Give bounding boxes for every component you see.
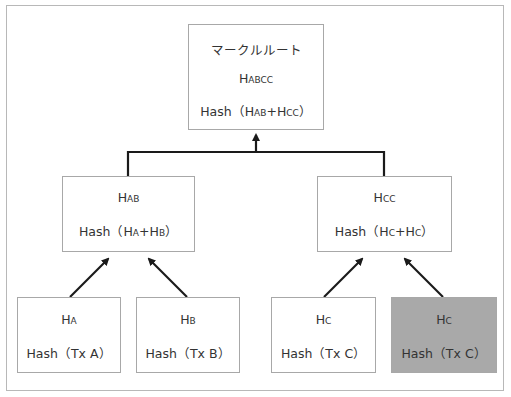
leaf-hash-label: HA [18,312,120,327]
hash-node-hab: HAB Hash（HA+HB） [62,176,195,252]
leaf-hash-label: HC [392,312,496,327]
leaf-formula: Hash（Tx C） [392,343,496,362]
hash-node-hcc: HCC Hash（HC+HC） [317,176,452,252]
leaf-hash-label: HC [272,312,375,327]
root-title: マークルルート [189,40,323,59]
leaf-node-hb: HB Hash（Tx B） [136,297,240,373]
leaf-hash-label: HB [137,312,239,327]
root-formula: Hash（HAB+HCC） [189,101,323,120]
leaf-node-hc-duplicate: HC Hash（Tx C） [391,297,497,373]
leaf-node-hc: HC Hash（Tx C） [271,297,376,373]
arrow-hc-to-hcc [324,259,362,297]
node-formula: Hash（HA+HB） [63,221,194,240]
leaf-formula: Hash（Tx A） [18,343,120,362]
node-hash-label: HCC [318,190,451,205]
root-hash-label: HABCC [189,71,323,86]
leaf-node-ha: HA Hash（Tx A） [17,297,121,373]
leaf-formula: Hash（Tx B） [137,343,239,362]
merkle-root-node: マークルルート HABCC Hash（HAB+HCC） [188,24,324,130]
node-formula: Hash（HC+HC） [318,221,451,240]
root-join-connector [128,135,384,176]
arrow-hb-to-hab [149,259,187,297]
arrow-hc2-to-hcc [405,259,443,297]
leaf-formula: Hash（Tx C） [272,343,375,362]
node-hash-label: HAB [63,190,194,205]
arrow-ha-to-hab [70,259,108,297]
